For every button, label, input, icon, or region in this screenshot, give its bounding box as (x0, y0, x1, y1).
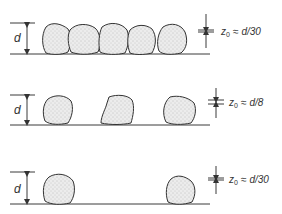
particle (99, 23, 129, 54)
height-label: d (14, 31, 21, 45)
particle (164, 96, 196, 124)
z0-marker (208, 166, 224, 194)
particle (43, 96, 72, 125)
particle (158, 24, 187, 54)
particle (43, 24, 71, 55)
height-label: d (14, 103, 21, 117)
particle (166, 176, 195, 204)
row-dense: d z0≈d/30 (10, 14, 261, 55)
height-label: d (14, 182, 21, 196)
particles (43, 95, 195, 124)
particle (43, 174, 74, 204)
particles (43, 23, 187, 54)
row-medium: d z0≈d/8 (10, 88, 264, 125)
particle (68, 24, 100, 54)
roughness-diagram: d z0≈d/30 d (0, 0, 282, 214)
z0-label: z0≈d/30 (220, 26, 261, 38)
particles (43, 174, 195, 204)
z0-label: z0≈d/8 (228, 97, 264, 109)
z0-marker (198, 14, 214, 48)
row-sparse: d z0≈d/30 (10, 166, 269, 204)
particle (128, 25, 156, 54)
particle (101, 95, 134, 124)
z0-marker (208, 88, 224, 118)
z0-label: z0≈d/30 (228, 174, 269, 186)
